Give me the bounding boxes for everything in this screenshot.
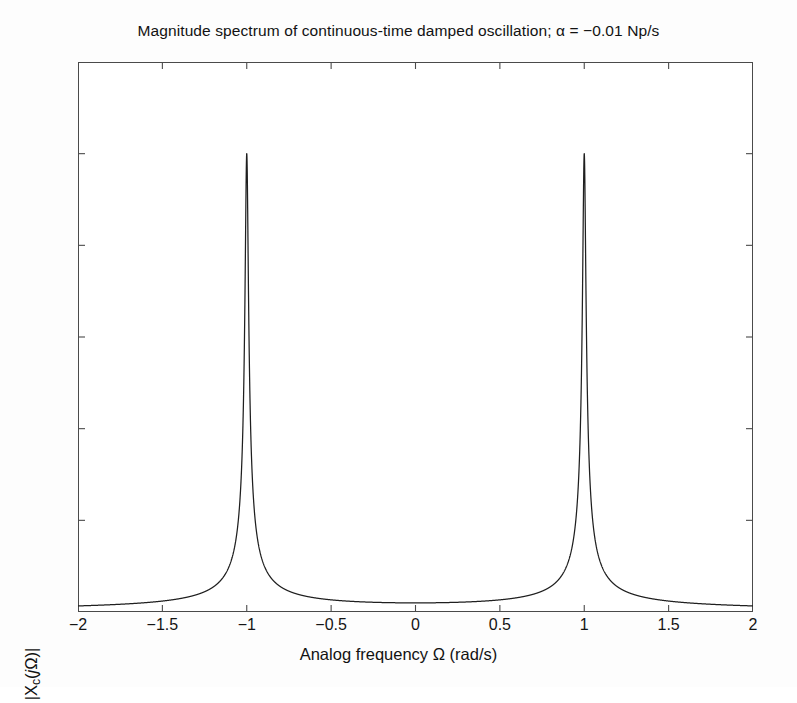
x-tick-label: −2 — [38, 616, 118, 634]
spectrum-curve — [78, 154, 753, 606]
chart-title: Magnitude spectrum of continuous-time da… — [0, 22, 797, 40]
y-axis-label-post: Ω)| — [22, 648, 40, 670]
y-axis-label: |Xc(jΩ)| — [22, 574, 43, 703]
y-axis-label-mid: ( — [22, 673, 40, 679]
y-axis-label-pre: |X — [22, 685, 40, 700]
x-tick-label: 0 — [376, 616, 456, 634]
x-tick-label: −0.5 — [291, 616, 371, 634]
x-axis-label: Analog frequency Ω (rad/s) — [0, 645, 797, 664]
x-axis-tick-labels: −2−1.5−1−0.500.511.52 — [78, 614, 753, 644]
x-tick-label: −1 — [207, 616, 287, 634]
y-axis-ticks — [78, 62, 753, 612]
x-tick-label: −1.5 — [122, 616, 202, 634]
y-axis-label-subscript: c — [29, 679, 43, 685]
curve-layer — [78, 62, 753, 612]
y-axis-label-italic-j: j — [22, 670, 40, 674]
plot-area — [78, 62, 753, 612]
x-tick-label: 0.5 — [460, 616, 540, 634]
x-tick-label: 2 — [713, 616, 793, 634]
x-tick-label: 1.5 — [629, 616, 709, 634]
x-axis-ticks — [78, 62, 753, 612]
x-tick-label: 1 — [544, 616, 624, 634]
